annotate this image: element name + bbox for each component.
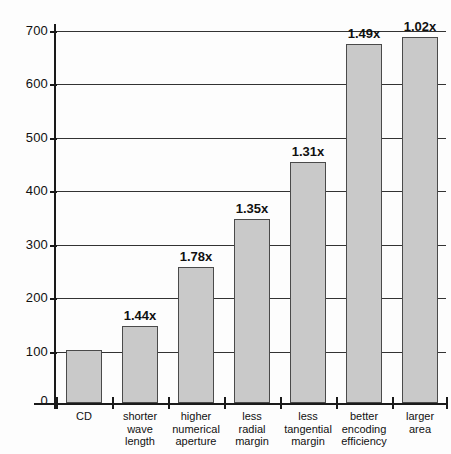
bar-group-less-radial-margin: 1.35x [224,28,280,403]
y-tick-label-500: 500 [26,131,48,144]
y-tick-label-300: 300 [26,238,48,251]
category-label-cd: CD [56,410,112,423]
bar-value-better-encoding-efficiency: 1.49x [348,27,381,40]
bar-value-less-radial-margin: 1.35x [236,202,269,215]
y-tick-label-700: 700 [26,24,48,37]
category-label-less-tangential-margin: less tangential margin [278,410,338,448]
x-tick-0 [56,397,58,409]
y-tick-label-400: 400 [26,184,48,197]
bar-value-shorter-wave-length: 1.44x [124,309,157,322]
bar-chart: 700 600 500 400 300 200 100 0 1.44x [0,0,451,454]
category-label-higher-numerical-aperture: higher numerical aperture [166,410,226,448]
bar-less-tangential-margin[interactable] [290,162,326,403]
bar-value-larger-area: 1.02x [404,20,437,33]
bar-group-shorter-wave-length: 1.44x [112,28,168,403]
y-axis-labels: 700 600 500 400 300 200 100 0 [0,0,48,454]
category-label-better-encoding-efficiency: better encoding efficiency [336,410,392,448]
bars-layer: 1.44x 1.78x 1.35x 1.31x 1.49x 1.02x [56,28,446,403]
x-tick-3 [224,397,226,409]
bar-less-radial-margin[interactable] [234,219,270,403]
x-tick-6 [392,397,394,409]
bar-value-less-tangential-margin: 1.31x [292,145,325,158]
bar-group-larger-area: 1.02x [392,28,448,403]
bar-group-less-tangential-margin: 1.31x [280,28,336,403]
y-tick-label-0: 0 [41,394,48,407]
x-tick-4 [280,397,282,409]
x-tick-7 [446,397,448,409]
y-tick-label-200: 200 [26,291,48,304]
plot-area: 1.44x 1.78x 1.35x 1.31x 1.49x 1.02x [56,28,446,403]
y-tick-label-100: 100 [26,345,48,358]
bar-shorter-wave-length[interactable] [122,326,158,403]
x-tick-1 [112,397,114,409]
bar-group-cd [56,28,112,403]
bar-higher-numerical-aperture[interactable] [178,267,214,403]
x-tick-2 [168,397,170,409]
bar-group-better-encoding-efficiency: 1.49x [336,28,392,403]
bar-better-encoding-efficiency[interactable] [346,44,382,403]
bar-larger-area[interactable] [402,37,438,403]
y-tick-label-600: 600 [26,77,48,90]
bar-value-higher-numerical-aperture: 1.78x [180,250,213,263]
category-label-shorter-wave-length: shorter wave length [112,410,168,448]
bar-cd[interactable] [66,350,102,403]
x-axis-category-labels: CD shorter wave length higher numerical … [56,410,446,454]
bar-group-higher-numerical-aperture: 1.78x [168,28,224,403]
x-tick-5 [336,397,338,409]
category-label-larger-area: larger area [392,410,448,435]
category-label-less-radial-margin: less radial margin [224,410,280,448]
